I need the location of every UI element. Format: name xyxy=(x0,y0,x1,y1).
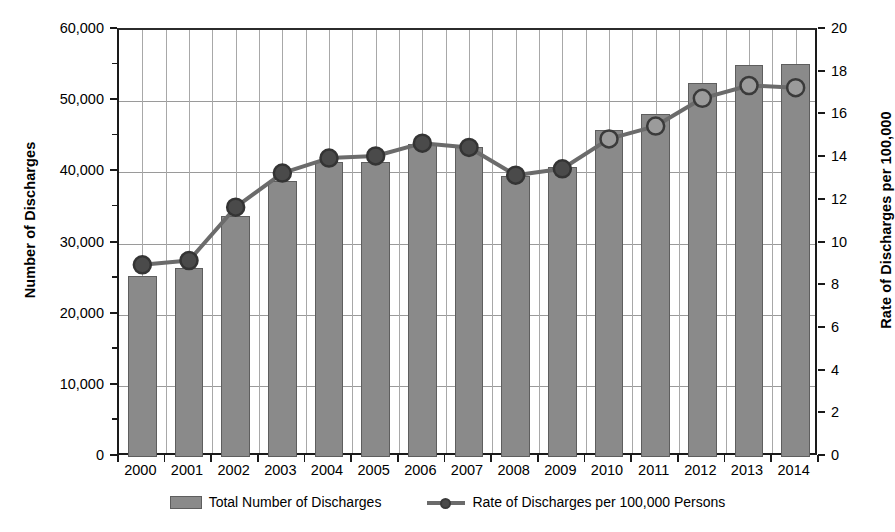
y-axis-left-title: Number of Discharges xyxy=(22,120,38,320)
y-right-tick xyxy=(818,241,825,243)
rate-marker-2007 xyxy=(461,139,478,156)
legend-bar-swatch xyxy=(170,496,202,509)
line-series xyxy=(119,30,819,457)
x-axis-label-2003: 2003 xyxy=(257,462,304,478)
rate-line xyxy=(142,86,795,265)
legend-line-marker-icon xyxy=(440,498,451,509)
plot-area xyxy=(117,28,817,455)
rate-marker-2009 xyxy=(554,160,571,177)
y-right-tick xyxy=(818,70,825,72)
x-axis-label-2006: 2006 xyxy=(397,462,444,478)
rate-markers xyxy=(134,77,804,273)
x-axis-label-2009: 2009 xyxy=(537,462,584,478)
x-axis-label-2002: 2002 xyxy=(210,462,257,478)
y-right-tick xyxy=(818,283,825,285)
legend-item-bars: Total Number of Discharges xyxy=(170,494,382,510)
legend-item-line: Rate of Discharges per 100,000 Persons xyxy=(427,494,725,510)
legend-bar-label: Total Number of Discharges xyxy=(209,494,382,510)
rate-marker-2012 xyxy=(694,90,711,107)
rate-marker-2002 xyxy=(227,199,244,216)
x-axis-label-2000: 2000 xyxy=(117,462,164,478)
rate-marker-2004 xyxy=(321,150,338,167)
y-left-tick xyxy=(110,241,117,243)
y-left-tick xyxy=(110,383,117,385)
rate-marker-2001 xyxy=(181,252,198,269)
rate-marker-2000 xyxy=(134,256,151,273)
rate-marker-2010 xyxy=(601,130,618,147)
x-axis-label-2013: 2013 xyxy=(724,462,771,478)
x-axis-label-2011: 2011 xyxy=(630,462,677,478)
y-left-tick xyxy=(110,98,117,100)
chart-legend: Total Number of Discharges Rate of Disch… xyxy=(0,494,895,510)
rate-marker-2005 xyxy=(367,147,384,164)
rate-marker-2011 xyxy=(647,118,664,135)
y-right-tick xyxy=(818,198,825,200)
plot-inner xyxy=(119,30,815,453)
x-axis-label-2007: 2007 xyxy=(444,462,491,478)
y-right-tick xyxy=(818,411,825,413)
x-axis-label-2010: 2010 xyxy=(584,462,631,478)
rate-marker-2003 xyxy=(274,165,291,182)
y-right-tick xyxy=(818,27,825,29)
x-axis-label-2004: 2004 xyxy=(304,462,351,478)
x-axis-label-2012: 2012 xyxy=(677,462,724,478)
y-right-tick xyxy=(818,112,825,114)
y-left-tick xyxy=(110,169,117,171)
rate-marker-2008 xyxy=(507,167,524,184)
x-axis-label-2005: 2005 xyxy=(350,462,397,478)
y-right-tick xyxy=(818,155,825,157)
x-axis-label-2001: 2001 xyxy=(164,462,211,478)
x-axis-label-2014: 2014 xyxy=(770,462,817,478)
legend-line-swatch xyxy=(427,496,465,508)
y-right-tick xyxy=(818,326,825,328)
rate-marker-2006 xyxy=(414,135,431,152)
x-axis-label-2008: 2008 xyxy=(490,462,537,478)
y-left-tick xyxy=(110,27,117,29)
legend-line-label: Rate of Discharges per 100,000 Persons xyxy=(472,494,725,510)
chart-root: Number of Discharges Rate of Discharges … xyxy=(0,0,895,532)
y-left-tick xyxy=(110,454,117,456)
rate-marker-2014 xyxy=(787,79,804,96)
y-right-tick xyxy=(818,454,825,456)
y-axis-right-title: Rate of Discharges per 100,000 xyxy=(878,60,894,380)
y-left-tick xyxy=(110,312,117,314)
rate-marker-2013 xyxy=(741,77,758,94)
y-right-tick xyxy=(818,369,825,371)
